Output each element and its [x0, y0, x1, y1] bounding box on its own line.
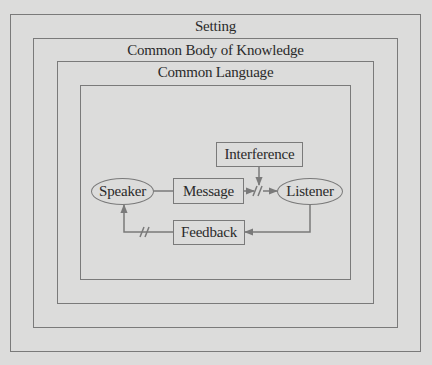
message-node: Message: [173, 178, 244, 204]
feedback-node: Feedback: [173, 220, 245, 245]
interference-node: Interference: [216, 142, 303, 167]
speaker-node: Speaker: [91, 178, 154, 205]
interruption-slash-2: [258, 186, 262, 196]
communication-model-diagram: Setting Common Body of Knowledge Common …: [0, 0, 432, 365]
listener-feedback-arrow: [245, 204, 310, 232]
listener-node: Listener: [277, 178, 343, 205]
